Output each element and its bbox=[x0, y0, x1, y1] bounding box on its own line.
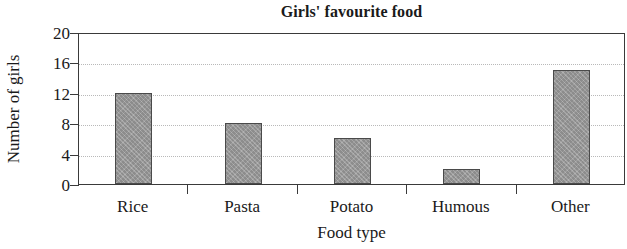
y-axis-tick-mark bbox=[70, 185, 79, 186]
bar bbox=[225, 123, 262, 184]
y-axis-tick-label: 12 bbox=[26, 85, 70, 102]
x-axis-category-label: Other bbox=[516, 196, 625, 217]
y-axis-tick-label: 16 bbox=[26, 55, 70, 72]
x-axis-category-label: Humous bbox=[406, 196, 515, 217]
y-axis-title: Number of girls bbox=[4, 55, 23, 164]
x-axis-tick-mark bbox=[187, 185, 188, 194]
chart-title: Girls' favourite food bbox=[78, 2, 625, 22]
x-axis-category-label: Potato bbox=[297, 196, 406, 217]
y-axis-tick-label: 4 bbox=[26, 146, 70, 163]
y-axis-tick-label: 20 bbox=[26, 25, 70, 42]
bar bbox=[553, 70, 590, 184]
x-axis-tick-mark bbox=[516, 185, 517, 194]
gridline bbox=[79, 125, 624, 126]
x-axis-category-label: Rice bbox=[78, 196, 187, 217]
y-axis-tick-label: 0 bbox=[26, 177, 70, 194]
x-axis-tick-mark bbox=[297, 185, 298, 194]
x-axis-category-label: Pasta bbox=[187, 196, 296, 217]
y-axis-title-container: Number of girls bbox=[0, 33, 26, 185]
y-axis-tick-labels: 048121620 bbox=[26, 33, 70, 185]
plot-area bbox=[78, 33, 625, 185]
x-axis-tick-mark bbox=[406, 185, 407, 194]
gridline bbox=[79, 95, 624, 96]
bar bbox=[334, 138, 371, 184]
x-axis-title: Food type bbox=[78, 222, 625, 243]
y-axis-tick-label: 8 bbox=[26, 116, 70, 133]
bar bbox=[115, 93, 152, 184]
gridline bbox=[79, 64, 624, 65]
bar bbox=[443, 169, 480, 184]
bar-chart: Girls' favourite food Number of girls 04… bbox=[0, 0, 627, 249]
